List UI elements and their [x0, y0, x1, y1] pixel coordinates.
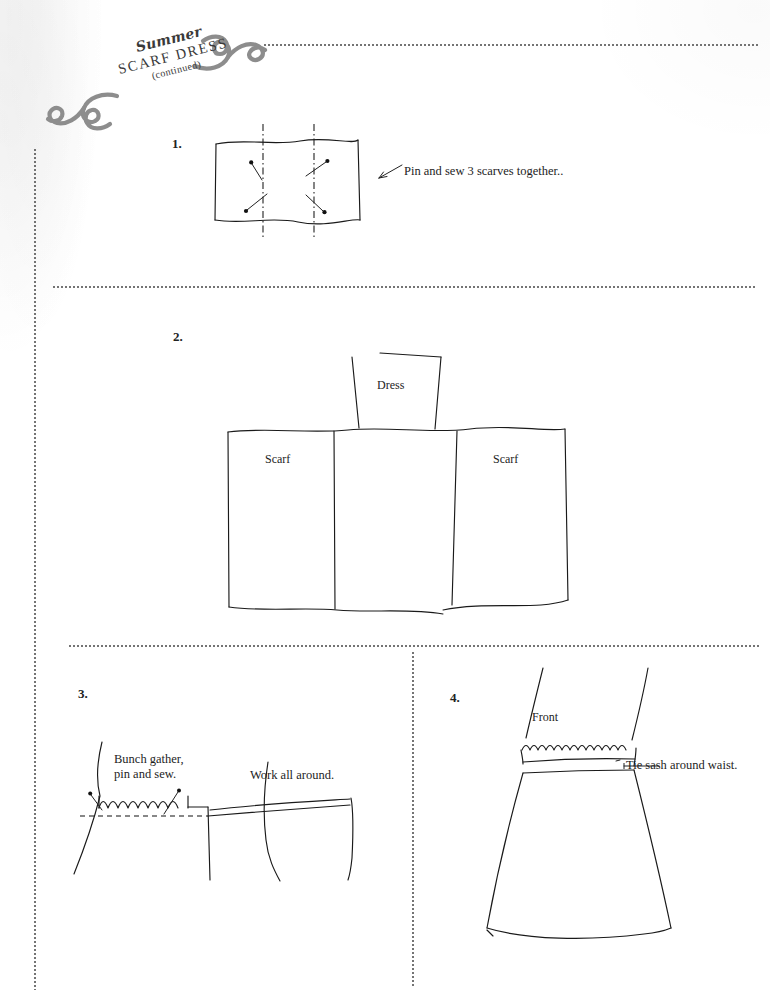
step-1-arrow-icon — [376, 163, 404, 183]
step-4-caption: Tie sash around waist. — [626, 758, 737, 773]
step-3-number: 3. — [78, 686, 88, 702]
step-2-label-scarf-right: Scarf — [493, 452, 518, 467]
instruction-page: Summer SCARF DRESS (continued) 1. Pin an… — [0, 0, 770, 993]
step-1-number: 1. — [172, 136, 182, 152]
step-4-label-front: Front — [532, 710, 558, 725]
scan-texture-left — [0, 0, 120, 420]
scan-texture-right — [570, 0, 770, 160]
step-2-number: 2. — [173, 329, 183, 345]
left-margin-rule — [34, 148, 36, 990]
top-divider — [263, 44, 760, 46]
page-title-block: Summer SCARF DRESS (continued) — [104, 17, 241, 91]
step-4-number: 4. — [450, 690, 460, 706]
step-2-label-scarf-left: Scarf — [265, 452, 290, 467]
scroll-flourish-left-icon — [44, 92, 122, 138]
step-2-diagram — [225, 335, 570, 610]
step-2-label-dress: Dress — [377, 378, 404, 393]
step-4-diagram — [468, 660, 698, 965]
column-divider-rule — [412, 651, 414, 987]
step-1-caption: Pin and sew 3 scarves together.. — [404, 164, 563, 179]
divider-after-step-2 — [68, 645, 760, 647]
step-1-diagram — [210, 122, 410, 257]
divider-after-step-1 — [52, 286, 757, 288]
step-3-diagram — [60, 740, 360, 885]
step-3-caption-right: Work all around. — [250, 768, 334, 783]
step-3-caption: Bunch gather, pin and sew. — [114, 752, 184, 783]
